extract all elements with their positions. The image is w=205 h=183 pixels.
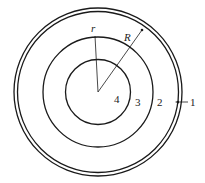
label-1-arrowhead: [175, 101, 179, 104]
region-label-4: 4: [114, 93, 120, 105]
region-label-1: 1: [190, 96, 196, 108]
label-R: R: [123, 31, 131, 43]
label-r: r: [91, 22, 96, 34]
concentric-circles-diagram: r R 1 2 3 4: [0, 0, 205, 183]
region-label-2: 2: [157, 96, 163, 108]
radius-R-line: [98, 30, 142, 92]
radius-r-line: [95, 36, 98, 92]
radius-R-endpoint: [141, 29, 144, 32]
region-label-3: 3: [135, 96, 141, 108]
